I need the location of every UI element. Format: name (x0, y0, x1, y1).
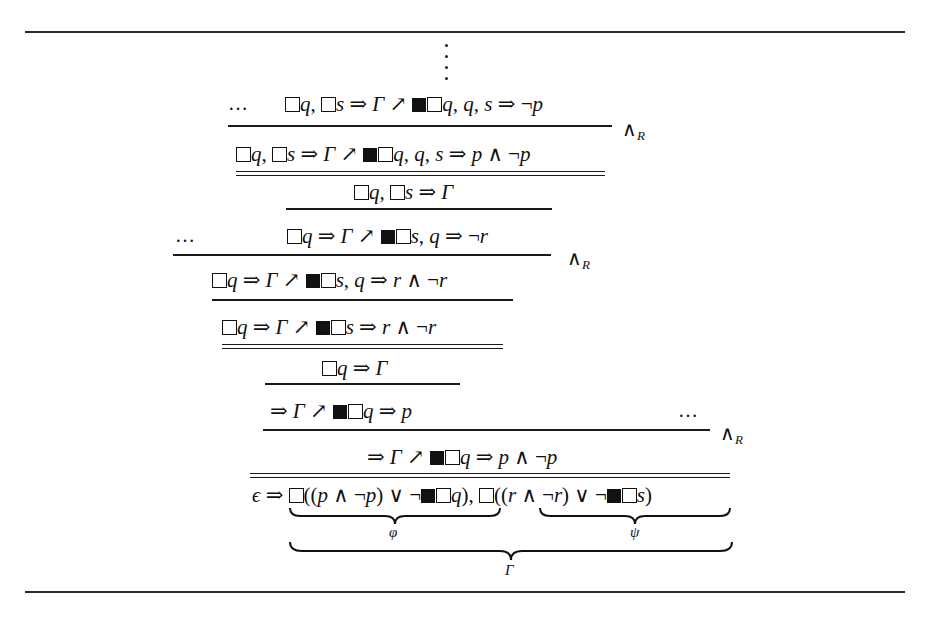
box-icon (445, 450, 460, 465)
double-inference-line-1 (236, 171, 605, 176)
box-icon (348, 404, 363, 419)
psi-label: ψ (630, 524, 639, 541)
box-icon (287, 229, 302, 244)
sequent-2: q, s ⇒ Γ ↗ q, q, s ⇒ p ∧ ¬p (236, 142, 530, 166)
box-icon (436, 488, 451, 503)
rule-label-and-r: ∧R (622, 117, 645, 144)
box-icon (378, 147, 393, 162)
black-box-icon (421, 489, 435, 503)
box-icon (396, 229, 411, 244)
box-icon (321, 273, 336, 288)
gamma-label: Γ (505, 562, 514, 579)
sequent-7: q ⇒ Γ (322, 356, 388, 380)
box-icon (212, 273, 227, 288)
sequent-3: q, s ⇒ Γ (354, 180, 453, 204)
box-icon (479, 488, 494, 503)
inference-line-3 (173, 254, 551, 256)
box-icon (222, 320, 237, 335)
inference-line-6 (263, 429, 710, 431)
inference-line-2 (286, 208, 552, 210)
box-icon (236, 147, 251, 162)
vertical-ellipsis (445, 44, 449, 88)
rule-label-and-r: ∧R (567, 246, 590, 273)
sequent-5: q ⇒ Γ ↗ s, q ⇒ r ∧ ¬r (212, 268, 447, 292)
sequent-root: ϵ ⇒ ((p ∧ ¬p) ∨ ¬q), ((r ∧ ¬r) ∨ ¬s) (252, 483, 652, 507)
black-box-icon (316, 321, 330, 335)
black-box-icon (607, 489, 621, 503)
box-icon (331, 320, 346, 335)
double-inference-line-2 (222, 344, 503, 349)
sequent-4: q ⇒ Γ ↗ s, q ⇒ ¬r (287, 224, 488, 248)
inference-line-4 (212, 299, 513, 301)
inference-line-1 (228, 125, 612, 127)
box-icon (322, 361, 337, 376)
box-icon (427, 97, 442, 112)
premise-ellipsis: … (228, 92, 251, 115)
box-icon (622, 488, 637, 503)
box-icon (289, 488, 304, 503)
black-box-icon (306, 274, 320, 288)
black-box-icon (412, 98, 426, 112)
top-rule (25, 31, 905, 33)
box-icon (285, 97, 300, 112)
sequent-8: ⇒ Γ ↗ q ⇒ p (270, 399, 412, 423)
sequent-9: ⇒ Γ ↗ q ⇒ p ∧ ¬p (367, 445, 557, 469)
underbrace-phi (288, 506, 502, 526)
underbrace-psi (538, 506, 732, 526)
rule-label-and-r: ∧R (720, 421, 743, 448)
sequent-1: q, s ⇒ Γ ↗ q, q, s ⇒ ¬p (285, 92, 543, 116)
double-inference-line-3 (250, 473, 730, 478)
bottom-rule (25, 591, 905, 593)
black-box-icon (363, 148, 377, 162)
premise-ellipsis: … (678, 399, 701, 422)
box-icon (354, 185, 369, 200)
box-icon (272, 147, 287, 162)
inference-line-5 (265, 383, 460, 385)
underbrace-gamma (288, 540, 734, 562)
black-box-icon (333, 405, 347, 419)
black-box-icon (430, 451, 444, 465)
premise-ellipsis: … (175, 224, 198, 247)
black-box-icon (381, 230, 395, 244)
box-icon (390, 185, 405, 200)
sequent-6: q ⇒ Γ ↗ s ⇒ r ∧ ¬r (222, 315, 436, 339)
box-icon (321, 97, 336, 112)
phi-label: φ (389, 524, 397, 541)
